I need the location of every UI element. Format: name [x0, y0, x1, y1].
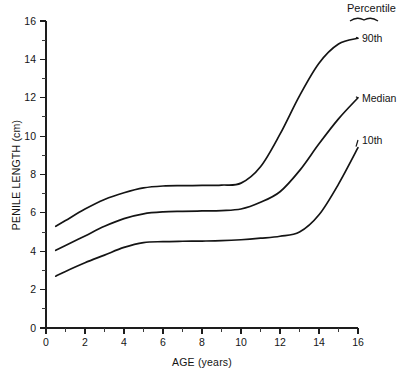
- y-tick-label: 6: [30, 206, 36, 218]
- series-leader-median: [356, 97, 358, 98]
- series-leader-lines: [356, 37, 358, 146]
- y-tick-label: 10: [24, 130, 36, 142]
- series-leader-90th: [356, 37, 358, 38]
- y-axis-ticks: [40, 21, 46, 328]
- x-tick-label: 2: [82, 336, 88, 348]
- x-axis-title: AGE (years): [172, 356, 232, 368]
- legend-group: Percentile: [347, 2, 396, 21]
- x-tick-label: 4: [121, 336, 127, 348]
- x-tick-label: 14: [313, 336, 325, 348]
- series-curves: [56, 38, 358, 276]
- x-axis-tick-labels: 0246810121416: [43, 336, 364, 348]
- x-tick-label: 8: [199, 336, 205, 348]
- x-tick-label: 6: [160, 336, 166, 348]
- y-tick-label: 4: [30, 245, 36, 257]
- series-label-10th: 10th: [362, 134, 383, 146]
- y-tick-label: 2: [30, 283, 36, 295]
- series-curve-median: [56, 98, 358, 251]
- y-tick-label: 8: [30, 168, 36, 180]
- y-tick-label: 14: [24, 53, 36, 65]
- series-curve-10th: [56, 148, 358, 277]
- y-tick-label: 16: [24, 15, 36, 27]
- series-labels: 90thMedian10th: [362, 32, 397, 146]
- series-label-median: Median: [362, 92, 397, 104]
- series-curve-90th: [56, 38, 358, 226]
- axes-group: [46, 21, 358, 328]
- series-label-90th: 90th: [362, 32, 383, 44]
- x-tick-label: 10: [235, 336, 247, 348]
- x-tick-label: 0: [43, 336, 49, 348]
- x-tick-label: 16: [352, 336, 364, 348]
- y-tick-label: 0: [30, 322, 36, 334]
- y-axis-tick-labels: 0246810121416: [24, 15, 36, 334]
- y-tick-label: 12: [24, 91, 36, 103]
- series-leader-10th: [356, 140, 358, 147]
- legend-title: Percentile: [347, 2, 396, 14]
- y-axis-title: PENILE LENGTH (cm): [10, 120, 22, 230]
- penile-length-growth-chart: 0246810121416 0246810121416 PENILE LENGT…: [0, 0, 400, 374]
- x-axis-ticks: [46, 328, 358, 334]
- chart-canvas: 0246810121416 0246810121416 PENILE LENGT…: [0, 0, 400, 374]
- legend-brace-icon: [350, 18, 378, 21]
- x-tick-label: 12: [274, 336, 286, 348]
